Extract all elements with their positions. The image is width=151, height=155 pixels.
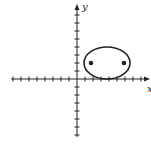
axes [11, 4, 150, 137]
y-axis-label: y [82, 2, 88, 12]
y-axis-arrow-icon [75, 4, 80, 10]
focus-left-point [89, 61, 94, 66]
ellipse-group [84, 47, 130, 79]
x-axis-label: x [147, 84, 151, 94]
x-axis-arrow-icon [144, 77, 150, 82]
focus-right-point [122, 61, 127, 66]
coordinate-plane [0, 0, 151, 155]
